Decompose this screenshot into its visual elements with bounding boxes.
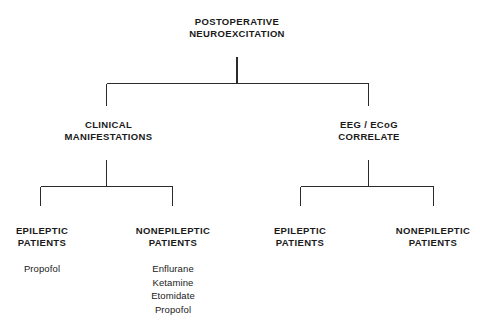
node-clinical-line-2: MANIFESTATIONS xyxy=(36,131,181,143)
node-clinical-manifestations-title: CLINICAL MANIFESTATIONS xyxy=(36,119,181,143)
node-clinical-manifestations: CLINICAL MANIFESTATIONS xyxy=(36,119,181,143)
drug-list-clinical-nonepileptic: Enflurane Ketamine Etomidate Propofol xyxy=(113,262,233,317)
node-eeg-line-2: CORRELATE xyxy=(298,131,440,143)
node-clinical-line-1: CLINICAL xyxy=(36,119,181,131)
node-eeg-epileptic-title: EPILEPTIC PATIENTS xyxy=(240,225,360,249)
node-eeg-epileptic-line-1: EPILEPTIC xyxy=(240,225,360,237)
node-eeg-nonepileptic-line-1: NONEPILEPTIC xyxy=(373,225,480,237)
node-clinical-epileptic-line-1: EPILEPTIC xyxy=(0,225,102,237)
node-clinical-nonepileptic: NONEPILEPTIC PATIENTS Enflurane Ketamine… xyxy=(113,225,233,317)
node-clinical-epileptic: EPILEPTIC PATIENTS Propofol xyxy=(0,225,102,276)
node-clinical-epileptic-line-2: PATIENTS xyxy=(0,237,102,249)
node-eeg-ecog-correlate-title: EEG / ECoG CORRELATE xyxy=(298,119,440,143)
node-eeg-ecog-correlate: EEG / ECoG CORRELATE xyxy=(298,119,440,143)
hierarchy-diagram: POSTOPERATIVE NEUROEXCITATION CLINICAL M… xyxy=(0,0,480,322)
node-eeg-epileptic: EPILEPTIC PATIENTS xyxy=(240,225,360,249)
drug-item: Etomidate xyxy=(113,289,233,303)
drug-item: Propofol xyxy=(0,262,102,276)
node-root-title: POSTOPERATIVE NEUROEXCITATION xyxy=(137,16,337,40)
node-clinical-nonepileptic-line-1: NONEPILEPTIC xyxy=(113,225,233,237)
node-eeg-nonepileptic: NONEPILEPTIC PATIENTS xyxy=(373,225,480,249)
node-root-line-2: NEUROEXCITATION xyxy=(137,28,337,40)
drug-item: Propofol xyxy=(113,303,233,317)
drug-list-clinical-epileptic: Propofol xyxy=(0,262,102,276)
node-eeg-nonepileptic-line-2: PATIENTS xyxy=(373,237,480,249)
node-eeg-nonepileptic-title: NONEPILEPTIC PATIENTS xyxy=(373,225,480,249)
node-clinical-nonepileptic-title: NONEPILEPTIC PATIENTS xyxy=(113,225,233,249)
node-clinical-epileptic-title: EPILEPTIC PATIENTS xyxy=(0,225,102,249)
node-eeg-epileptic-line-2: PATIENTS xyxy=(240,237,360,249)
node-root-line-1: POSTOPERATIVE xyxy=(137,16,337,28)
drug-item: Enflurane xyxy=(113,262,233,276)
node-clinical-nonepileptic-line-2: PATIENTS xyxy=(113,237,233,249)
node-eeg-line-1: EEG / ECoG xyxy=(298,119,440,131)
drug-item: Ketamine xyxy=(113,276,233,290)
node-root: POSTOPERATIVE NEUROEXCITATION xyxy=(137,16,337,40)
